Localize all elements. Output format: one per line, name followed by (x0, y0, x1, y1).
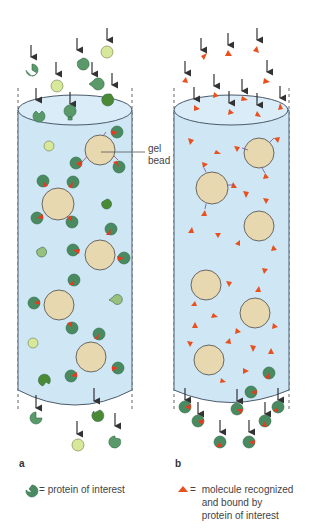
panel-label-a: a (19, 458, 25, 469)
legend-a-text: protein of interest (48, 484, 125, 495)
affinity-chromatography-diagram (0, 0, 311, 529)
gel-bead (240, 298, 270, 328)
gel-bead (244, 211, 274, 241)
gel-bead (194, 345, 224, 375)
legend-b-line2: and bound by (202, 496, 294, 509)
legend-b-equals: = (190, 483, 196, 496)
gel-bead (196, 172, 228, 204)
panel-label-b: b (175, 458, 181, 469)
gel-bead (44, 290, 74, 320)
gel-bead-label-line2: bead (148, 155, 170, 167)
legend-b-line1: molecule recognized (202, 483, 294, 496)
gel-bead-label: gel bead (148, 143, 170, 167)
gel-bead (85, 240, 115, 270)
legend-b-line3: protein of interest (202, 509, 294, 522)
eluted-complexes-b (179, 401, 284, 448)
gel-bead (76, 342, 106, 372)
legend-b: = molecule recognized and bound by prote… (190, 483, 293, 522)
flow-arrows-b-top (185, 28, 280, 105)
legend-a-equals: = (39, 484, 45, 495)
flow-arrows-a-top (31, 28, 112, 104)
legend-a: = protein of interest (39, 483, 125, 496)
gel-bead (244, 138, 274, 168)
molecule-legend-icon (178, 486, 188, 492)
gel-bead (42, 188, 74, 220)
protein-legend-icon (26, 485, 38, 497)
gel-bead-label-line1: gel (148, 143, 170, 155)
eluted-particles-a (30, 410, 121, 451)
gel-bead (191, 270, 221, 300)
